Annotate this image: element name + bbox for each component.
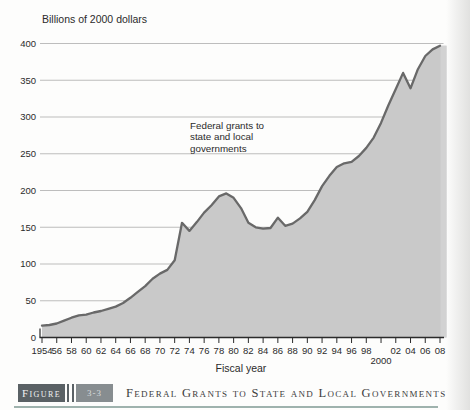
figure-divider (67, 384, 74, 402)
x-tick-label: 60 (81, 345, 92, 356)
y-tick-label: 250 (20, 148, 36, 159)
annotation-line: governments (190, 143, 247, 154)
chart-canvas: 0501001502002503003504001954565860626466… (0, 0, 470, 380)
figure-caption-text: Federal Grants to State and Local Govern… (126, 384, 446, 402)
figure-caption: Figure 3-3 Federal Grants to State and L… (18, 384, 446, 402)
x-tick-label: 66 (125, 345, 136, 356)
x-tick-label: 76 (199, 345, 210, 356)
y-tick-label: 400 (20, 38, 36, 49)
grants-area-chart: 0501001502002503003504001954565860626466… (0, 0, 470, 380)
x-tick-label: 70 (155, 345, 166, 356)
x-tick-label: 80 (228, 345, 239, 356)
figure-label-box: Figure (18, 384, 65, 402)
x-tick-label: 1954 (31, 345, 52, 356)
y-tick-label: 300 (20, 111, 36, 122)
x-tick-label: 88 (287, 345, 298, 356)
y-tick-label: 0 (31, 332, 36, 343)
figure-number-box: 3-3 (76, 384, 113, 402)
x-tick-label: 56 (51, 345, 62, 356)
y-tick-label: 200 (20, 185, 36, 196)
x-tick-label: 94 (332, 345, 343, 356)
annotation-line: state and local (190, 131, 253, 142)
x-tick-label: 62 (96, 345, 107, 356)
x-tick-label: 96 (346, 345, 357, 356)
x-tick-label: 84 (258, 345, 269, 356)
caption-accent-rule (14, 406, 438, 408)
x-tick-label: 06 (420, 345, 431, 356)
x-tick-label: 78 (214, 345, 225, 356)
x-tick-label: 82 (243, 345, 254, 356)
x-tick-label: 92 (317, 345, 328, 356)
chart-title: Billions of 2000 dollars (42, 13, 147, 25)
x-tick-label: 2000 (370, 355, 391, 366)
y-tick-label: 50 (25, 295, 36, 306)
x-tick-label: 68 (140, 345, 151, 356)
x-tick-label: 74 (184, 345, 195, 356)
x-tick-label: 02 (390, 345, 401, 356)
y-tick-label: 100 (20, 258, 36, 269)
x-tick-label: 90 (302, 345, 313, 356)
y-tick-label: 350 (20, 75, 36, 86)
x-axis-title: Fiscal year (216, 362, 267, 374)
y-tick-label: 150 (20, 222, 36, 233)
x-tick-label: 64 (110, 345, 121, 356)
area-fill-edge (441, 46, 447, 338)
x-tick-label: 04 (405, 345, 416, 356)
x-tick-label: 08 (435, 345, 446, 356)
x-tick-label: 86 (273, 345, 284, 356)
x-tick-label: 72 (169, 345, 180, 356)
area-fill (42, 46, 447, 338)
x-tick-label: 58 (66, 345, 77, 356)
annotation-line: Federal grants to (190, 120, 265, 131)
